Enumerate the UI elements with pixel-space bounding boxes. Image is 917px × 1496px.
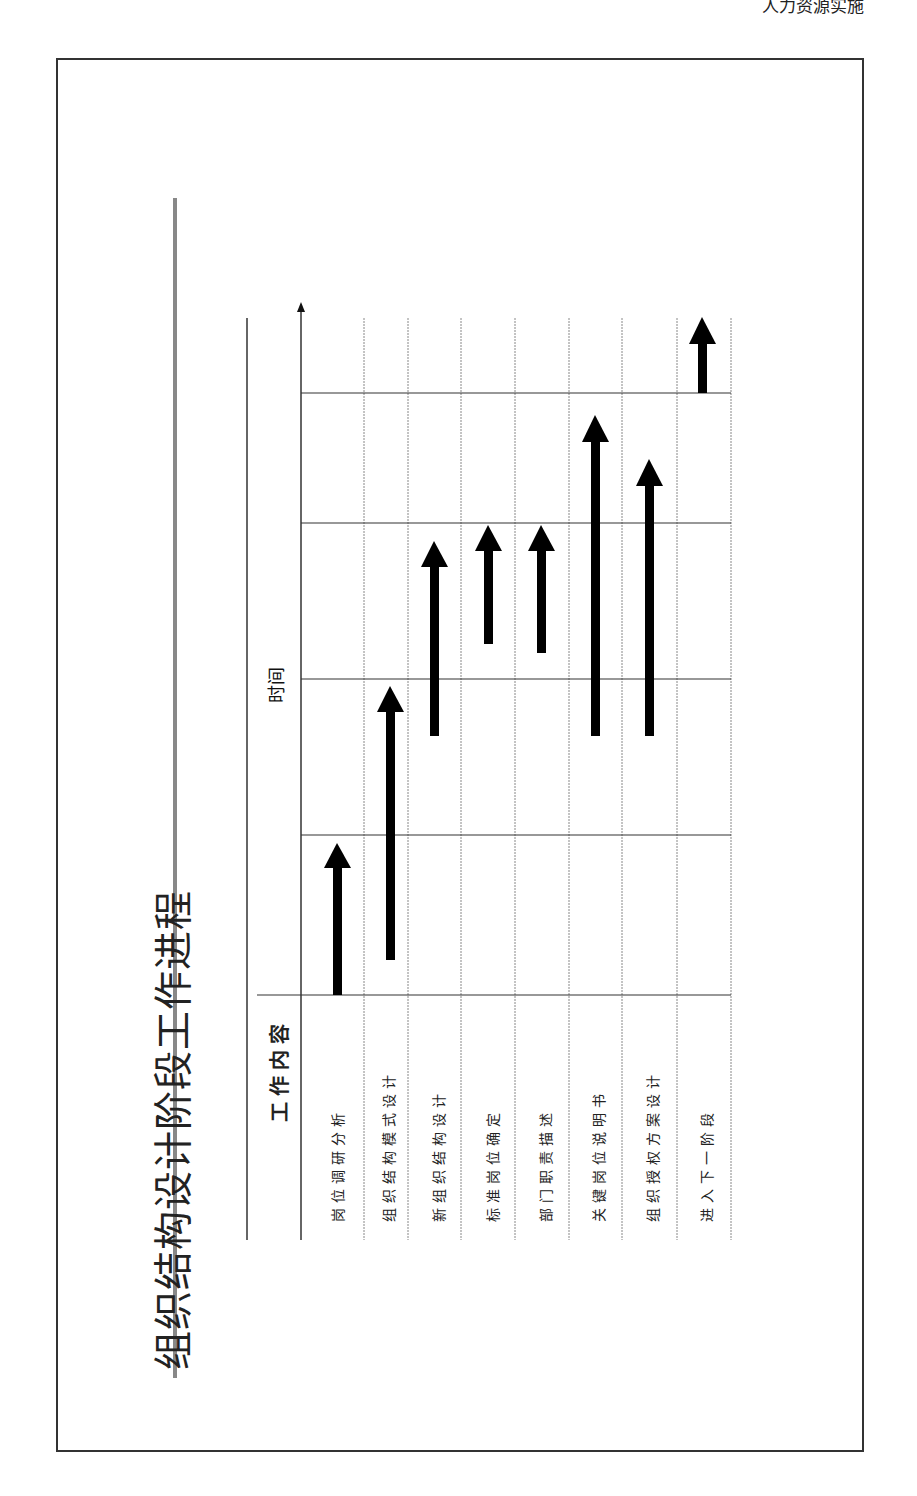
row-label: 组织结构模式设计	[378, 1070, 398, 1222]
row-label: 组织授权方案设计	[642, 1070, 662, 1222]
row-label: 新组织结构设计	[428, 1089, 448, 1222]
row-label: 标准岗位确定	[482, 1108, 502, 1222]
row-label: 进入下一阶段	[696, 1108, 716, 1222]
row-label: 岗位调研分析	[327, 1108, 347, 1222]
row-dividers	[364, 318, 731, 1240]
gantt-chart	[0, 0, 917, 1496]
column-header-work-content: 工作内容	[264, 1018, 293, 1122]
task-arrows	[324, 317, 716, 995]
row-label: 关键岗位说明书	[588, 1089, 608, 1222]
time-axis-label: 时间	[262, 667, 288, 703]
row-label: 部门职责描述	[535, 1108, 555, 1222]
axis-arrow-icon	[297, 302, 305, 312]
